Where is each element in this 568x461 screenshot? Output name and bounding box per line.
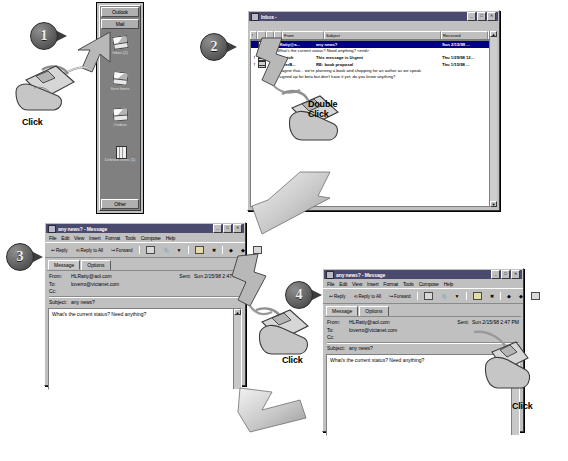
sidebar-item-outbox[interactable]: Outbox	[100, 108, 140, 127]
column-subject[interactable]: Subject	[324, 31, 441, 39]
help-pointer-icon	[531, 292, 540, 300]
menu-format[interactable]: Format	[105, 235, 120, 241]
previous-item-button[interactable]: ◆	[504, 292, 514, 301]
reply-all-button[interactable]: ⇚ Reply to All	[351, 292, 385, 301]
to-label: To:	[327, 327, 349, 333]
cc-row: Cc:	[49, 288, 241, 294]
reply-arrow-icon: ↩	[329, 294, 333, 299]
delete-x-icon: ✖	[212, 248, 216, 253]
delete-button[interactable]: ✖	[209, 246, 219, 255]
menu-insert[interactable]: Insert	[367, 281, 378, 287]
outlook-bar-group-outlook[interactable]: Outlook	[101, 7, 139, 17]
menu-edit[interactable]: Edit	[339, 281, 347, 287]
tab-strip[interactable]: Message Options	[323, 304, 523, 316]
tutorial-diagram: Outlook Mail Inbox (2) Sent Items	[0, 0, 568, 461]
inbox-window-buttons[interactable]: _ □ ✕	[467, 12, 496, 21]
attach-button[interactable]: 📎	[438, 292, 450, 301]
message-header-fields: From: HLRatty@aol.com Sent: Sun 2/15/98 …	[45, 271, 245, 307]
move-to-folder-button[interactable]	[470, 290, 485, 302]
outbox-envelope-icon	[113, 108, 128, 121]
inbox-envelope-icon	[113, 36, 128, 49]
delete-x-icon: ✖	[490, 294, 494, 299]
menu-bar[interactable]: File Edit View Insert Format Tools Compo…	[45, 234, 245, 242]
toolbar[interactable]: ↩ Reply ⇚ Reply to All ↪ Forward 📎 ▼	[323, 288, 523, 304]
message-window-step3[interactable]: any news? - Message _ □ ✕ File Edit View…	[44, 222, 246, 386]
to-label: To:	[49, 281, 71, 287]
step-callout-3: 3	[6, 243, 34, 271]
close-button[interactable]: ✕	[487, 12, 496, 21]
cell-subject: RE: book proposal	[316, 62, 442, 67]
print-button[interactable]	[421, 290, 436, 302]
close-button[interactable]: ✕	[511, 270, 520, 279]
menu-view[interactable]: View	[74, 235, 84, 241]
column-received[interactable]: Received	[441, 31, 488, 39]
forward-button[interactable]: ↪ Forward	[386, 292, 414, 301]
inbox-title: Inbox -	[261, 14, 467, 20]
menu-compose[interactable]: Compose	[419, 281, 439, 287]
tab-message[interactable]: Message	[48, 260, 80, 270]
tab-message[interactable]: Message	[326, 306, 358, 316]
menu-tools[interactable]: Tools	[125, 235, 136, 241]
menu-view[interactable]: View	[352, 281, 362, 287]
cell-received: Thu 1/15/98 ...	[442, 62, 489, 67]
step-callout-1: 1	[30, 22, 58, 50]
reply-button[interactable]: ↩ Reply	[48, 246, 71, 255]
menu-tools[interactable]: Tools	[403, 281, 414, 287]
flag-button[interactable]: ▼	[452, 292, 463, 301]
next-arrow-icon: ◆	[519, 294, 523, 299]
message-window-buttons[interactable]: _ □ ✕	[213, 224, 242, 233]
menu-file[interactable]: File	[327, 281, 334, 287]
menu-edit[interactable]: Edit	[61, 235, 69, 241]
maximize-button[interactable]: □	[223, 224, 232, 233]
scroll-up-arrow[interactable]: ▲	[490, 31, 497, 37]
menu-format[interactable]: Format	[383, 281, 398, 287]
print-button[interactable]	[143, 244, 158, 256]
message-title: any news? - Message	[336, 272, 491, 278]
flag-button[interactable]: ▼	[174, 246, 185, 255]
cell-subject: any news?	[316, 42, 442, 47]
subject-value: any news?	[71, 299, 241, 305]
forward-button[interactable]: ↪ Forward	[108, 246, 136, 255]
tab-options[interactable]: Options	[81, 260, 110, 270]
minimize-button[interactable]: _	[467, 12, 476, 21]
folder-icon	[195, 246, 204, 254]
sent-envelope-icon	[113, 72, 128, 85]
reply-button[interactable]: ↩ Reply	[326, 292, 349, 301]
inbox-titlebar[interactable]: Inbox - _ □ ✕	[249, 12, 498, 21]
menu-compose[interactable]: Compose	[141, 235, 161, 241]
cell-subject: This message is Urgent	[316, 55, 442, 60]
message-title: any news? - Message	[58, 226, 213, 232]
next-item-button[interactable]: ◆	[516, 292, 526, 301]
message-titlebar[interactable]: any news? - Message _ □ ✕	[324, 270, 522, 279]
move-to-folder-button[interactable]	[192, 244, 207, 256]
delete-button[interactable]: ✖	[487, 292, 497, 301]
message-window-buttons[interactable]: _ □ ✕	[491, 270, 520, 279]
sidebar-item-deleted-items[interactable]: Deleted Items (1)	[100, 144, 140, 163]
attach-button[interactable]: 📎	[160, 246, 172, 255]
tab-strip[interactable]: Message Options	[45, 258, 245, 270]
menu-insert[interactable]: Insert	[89, 235, 100, 241]
folder-icon	[251, 13, 259, 21]
click-label-step3: Click	[282, 356, 303, 366]
toolbar[interactable]: ↩ Reply ⇚ Reply to All ↪ Forward 📎 ▼	[45, 242, 245, 258]
scroll-down-arrow[interactable]: ▼	[490, 201, 497, 207]
maximize-button[interactable]: □	[501, 270, 510, 279]
menu-help[interactable]: Help	[444, 281, 453, 287]
menu-file[interactable]: File	[49, 235, 56, 241]
help-button[interactable]	[528, 290, 543, 302]
outlook-bar-group-other[interactable]: Other	[101, 199, 139, 209]
menu-help[interactable]: Help	[166, 235, 175, 241]
step-number: 1	[41, 29, 48, 43]
minimize-button[interactable]: _	[213, 224, 222, 233]
message-body[interactable]: What's the current status? Need anything…	[48, 308, 242, 390]
close-button[interactable]: ✕	[233, 224, 242, 233]
from-value: HLRatty@aol.com	[71, 273, 179, 279]
message-titlebar[interactable]: any news? - Message _ □ ✕	[46, 224, 244, 233]
envelope-icon	[48, 225, 56, 233]
tab-options[interactable]: Options	[359, 306, 388, 316]
minimize-button[interactable]: _	[491, 270, 500, 279]
menu-bar[interactable]: File Edit View Insert Format Tools Compo…	[323, 280, 523, 288]
maximize-button[interactable]: □	[477, 12, 486, 21]
scrollbar-vertical[interactable]: ▲ ▼	[489, 31, 497, 207]
reply-all-button[interactable]: ⇚ Reply to All	[73, 246, 107, 255]
